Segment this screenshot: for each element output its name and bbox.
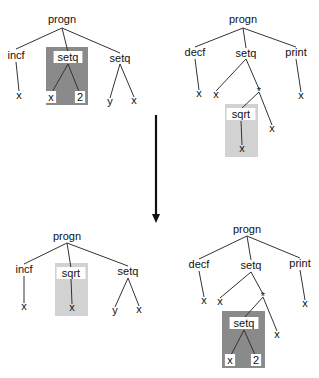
- tree-node: decf: [189, 258, 211, 270]
- tree-node: print: [285, 46, 306, 58]
- tree-node: 2: [251, 354, 261, 366]
- node-label: y: [112, 304, 118, 316]
- node-label: print: [285, 46, 306, 58]
- tree-edge: [243, 28, 296, 47]
- tree-node: x: [217, 295, 223, 307]
- node-label: x: [298, 89, 304, 101]
- node-label: x: [21, 300, 27, 312]
- node-label: *: [257, 85, 262, 97]
- tree-edge: [216, 59, 246, 91]
- tree-node: y: [107, 95, 113, 107]
- tree-node: x: [201, 294, 207, 306]
- tree-node: x: [269, 122, 275, 134]
- tree-node: 2: [75, 91, 85, 103]
- tree-node: x: [274, 328, 280, 340]
- tree-node: setq: [54, 51, 83, 63]
- node-label: progn: [53, 230, 81, 242]
- node-label: decf: [185, 46, 207, 58]
- node-label: y: [107, 95, 113, 107]
- tree-edge: [195, 59, 199, 90]
- tree-edge: [120, 64, 134, 97]
- tree-edge: [199, 236, 247, 259]
- node-label: x: [227, 354, 233, 366]
- transition-arrow: [152, 115, 160, 223]
- node-label: incf: [15, 263, 33, 275]
- tree-edge: [263, 297, 277, 331]
- node-label: x: [196, 87, 202, 99]
- crossover-diagram: prognincfsetqsetqxx2yxprogndecfsetqprint…: [0, 0, 319, 378]
- tree-node: incf: [7, 49, 25, 61]
- node-label: x: [136, 303, 142, 315]
- tree-node: progn: [229, 13, 257, 25]
- tree-node: setq: [118, 265, 139, 277]
- node-label: x: [274, 328, 280, 340]
- tree-node: *: [261, 290, 266, 302]
- node-label: x: [48, 91, 54, 103]
- tree-node: progn: [233, 223, 261, 235]
- node-label: setq: [118, 265, 139, 277]
- node-label: progn: [48, 13, 76, 25]
- node-label: x: [201, 294, 207, 306]
- tree-edge: [115, 278, 128, 307]
- tree-edge: [110, 64, 120, 98]
- tree-node: x: [225, 354, 235, 366]
- tree-node: setq: [230, 317, 259, 329]
- node-label: setq: [58, 51, 79, 63]
- tree-node: setq: [110, 52, 131, 64]
- node-label: x: [269, 122, 275, 134]
- tree-edge: [16, 28, 62, 49]
- tree-node: x: [302, 297, 308, 309]
- node-label: incf: [7, 49, 25, 61]
- node-label: x: [131, 94, 137, 106]
- tree-node: x: [213, 88, 219, 100]
- node-label: sqrt: [62, 267, 80, 279]
- tree-node: x: [69, 301, 75, 313]
- tree-edge: [128, 278, 139, 306]
- node-label: *: [261, 290, 266, 302]
- arrow-head-icon: [152, 214, 160, 223]
- node-label: 2: [253, 354, 259, 366]
- tree-edge: [243, 28, 246, 48]
- node-label: x: [16, 89, 22, 101]
- tree-node: decf: [185, 46, 207, 58]
- node-label: sqrt: [232, 108, 250, 120]
- tree-node: x: [16, 89, 22, 101]
- tree-node: y: [112, 304, 118, 316]
- node-label: x: [69, 301, 75, 313]
- tree-edge: [67, 243, 128, 266]
- tree-node: x: [136, 303, 142, 315]
- tree-node: x: [131, 94, 137, 106]
- tree-node: x: [46, 91, 56, 103]
- tree-node: x: [239, 142, 245, 154]
- tree-node: sqrt: [227, 108, 256, 120]
- node-label: setq: [241, 259, 262, 271]
- tree-node: progn: [53, 230, 81, 242]
- node-label: setq: [236, 47, 257, 59]
- node-label: 2: [77, 91, 83, 103]
- tree-node: print: [289, 257, 310, 269]
- node-label: x: [213, 88, 219, 100]
- tree-edge: [247, 236, 251, 260]
- tree-edge: [247, 236, 300, 258]
- tree-edge: [24, 243, 67, 264]
- tree-node: sqrt: [57, 267, 86, 279]
- tree-node: incf: [15, 263, 33, 275]
- tree-node: x: [21, 300, 27, 312]
- node-label: progn: [229, 13, 257, 25]
- node-label: x: [239, 142, 245, 154]
- tree-edge: [296, 59, 301, 92]
- tree-node: setq: [241, 259, 262, 271]
- tree-edge: [195, 28, 243, 47]
- tree-edge: [220, 272, 251, 298]
- tree-node: setq: [236, 47, 257, 59]
- tree-edge: [300, 270, 305, 300]
- node-label: setq: [110, 52, 131, 64]
- node-label: setq: [234, 317, 255, 329]
- node-label: x: [217, 295, 223, 307]
- node-label: decf: [189, 258, 211, 270]
- tree-node: progn: [48, 13, 76, 25]
- node-label: progn: [233, 223, 261, 235]
- tree-node: *: [257, 85, 262, 97]
- tree-node: x: [196, 87, 202, 99]
- tree-edge: [16, 62, 19, 91]
